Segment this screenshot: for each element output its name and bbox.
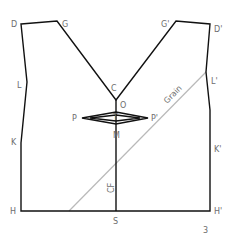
label-G: G [62, 20, 68, 29]
label-H: H [10, 207, 16, 216]
label-D-prime: D' [214, 25, 222, 34]
label-S: S [113, 217, 118, 226]
label-L: L [17, 81, 22, 90]
label-K-prime: K' [214, 145, 221, 154]
label-H-prime: H' [214, 207, 222, 216]
pattern-diagram: D G C O G' D' L L' K K' P P' T M H S H' … [0, 0, 236, 238]
label-P: P [72, 114, 77, 123]
label-D: D [11, 20, 17, 29]
grain-label: Grain [162, 84, 184, 106]
label-G-prime: G' [161, 20, 169, 29]
label-C: C [111, 84, 117, 93]
label-T: T [112, 113, 118, 122]
label-P-prime: P' [151, 114, 158, 123]
label-O: O [120, 101, 126, 110]
center-front-label: CF [107, 182, 116, 193]
label-L-prime: L' [211, 77, 218, 86]
label-M: M [113, 131, 120, 140]
grain-line [69, 72, 206, 211]
page-number: 3 [203, 226, 208, 235]
label-K: K [11, 138, 17, 147]
